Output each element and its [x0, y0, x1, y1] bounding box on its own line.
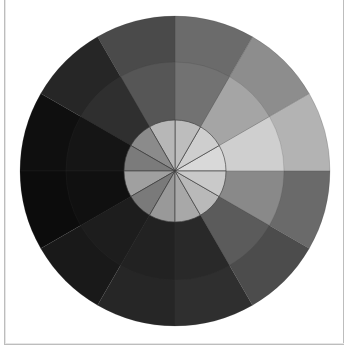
- grayscale-color-wheel: [0, 0, 350, 353]
- inner-ring: [124, 120, 226, 222]
